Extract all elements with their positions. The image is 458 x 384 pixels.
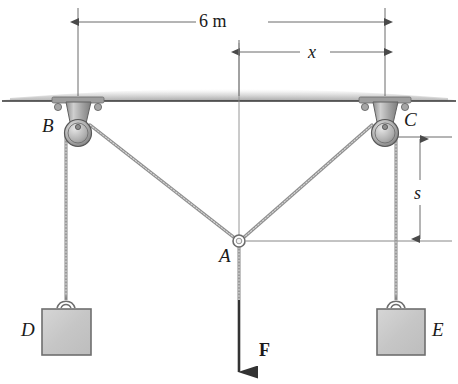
pulley-c-bolt-left bbox=[361, 103, 368, 110]
label-block-d: D bbox=[21, 320, 35, 339]
label-point-c: C bbox=[404, 110, 417, 129]
cable-b-to-a-texture bbox=[90, 125, 236, 239]
label-point-b: B bbox=[42, 116, 54, 135]
block-d-eyelet-inner bbox=[61, 304, 71, 308]
pulley-b-bolt-right bbox=[94, 103, 101, 110]
pulley-b-bolt-left bbox=[54, 103, 61, 110]
pulley-b-wheel bbox=[65, 120, 92, 147]
cable-c-to-a-texture bbox=[242, 125, 372, 239]
diagram-canvas bbox=[0, 0, 458, 384]
s-dimension-label: s bbox=[414, 184, 421, 202]
x-dimension-label: x bbox=[308, 43, 316, 61]
s-dimension bbox=[246, 137, 452, 241]
block-e bbox=[377, 296, 425, 355]
point-a-ring bbox=[233, 235, 245, 247]
pulley-c-axle bbox=[382, 124, 387, 129]
block-e-eyelet-inner bbox=[391, 304, 401, 308]
block-d-body bbox=[42, 309, 91, 355]
block-d bbox=[42, 296, 91, 355]
pulley-b-axle bbox=[75, 124, 80, 129]
ring-a-inner bbox=[236, 238, 242, 244]
pulley-b bbox=[52, 97, 104, 147]
span-dimension-label: 6 m bbox=[199, 12, 227, 30]
label-force: F bbox=[259, 341, 270, 359]
cable-group bbox=[66, 125, 396, 300]
pulley-force-diagram: 6 m x s B C A D E F bbox=[0, 0, 458, 384]
label-block-e: E bbox=[432, 320, 444, 339]
block-e-body bbox=[377, 309, 425, 355]
pulley-c-wheel bbox=[372, 120, 399, 147]
label-point-a: A bbox=[219, 246, 231, 265]
